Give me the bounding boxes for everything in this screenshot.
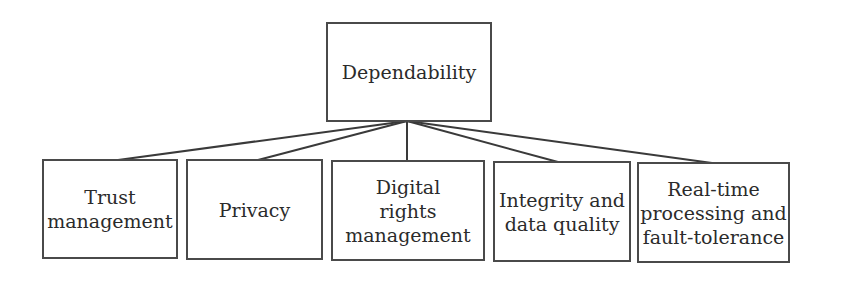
child-node-real-time-fault-tolerance: Real-time processing and fault-tolerance (637, 162, 790, 263)
dependability-diagram: Dependability Trust management Privacy D… (0, 0, 842, 285)
connector-trust-management (118, 121, 407, 160)
connector-privacy (258, 121, 407, 160)
root-node-dependability: Dependability (326, 22, 492, 122)
child-node-privacy: Privacy (186, 159, 323, 260)
root-node-label: Dependability (342, 60, 476, 84)
child-node-label: Privacy (219, 198, 290, 222)
child-node-label: Digital rights management (345, 175, 470, 247)
connector-integrity (407, 121, 558, 162)
child-node-label: Real-time processing and fault-tolerance (640, 177, 786, 249)
child-node-label: Integrity and data quality (499, 188, 625, 236)
connector-real-time (407, 121, 712, 163)
child-node-digital-rights-management: Digital rights management (331, 160, 485, 261)
child-node-integrity-data-quality: Integrity and data quality (493, 161, 631, 262)
child-node-trust-management: Trust management (42, 159, 178, 259)
child-node-label: Trust management (47, 185, 172, 233)
